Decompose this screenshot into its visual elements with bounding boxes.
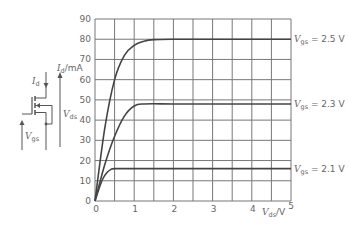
curve-label: Vgs = 2.5 V [294,34,345,46]
y-tick-label: 90 [80,14,92,24]
y-axis-ticks: 0102030405060708090 [80,14,92,206]
y-tick-label: 10 [80,176,92,186]
vgs-label: Vgs [25,131,40,143]
x-tick-label: 0 [93,204,99,214]
y-tick-label: 30 [80,135,92,145]
curve-label: Vgs = 2.3 V [294,99,345,111]
y-tick-label: 0 [85,196,91,206]
y-tick-label: 80 [80,34,92,44]
id-arrow-icon [44,83,49,88]
y-tick-label: 20 [80,156,92,166]
id-label: Id [31,76,40,88]
y-tick-label: 50 [80,95,92,105]
curve-labels: Vgs = 2.5 VVgs = 2.3 VVgs = 2.1 V [294,34,345,175]
x-tick-label: 2 [172,204,178,214]
y-tick-label: 60 [80,75,92,85]
vgs-arrow-icon [20,120,25,125]
vds-label: Vds [63,109,78,121]
grid [95,19,291,201]
iv-characteristic-chart: 0102030405060708090 012345 Vgs = 2.5 VVg… [0,0,352,228]
body-arrow-icon [36,103,40,108]
y-tick-label: 40 [80,115,92,125]
x-tick-label: 1 [132,204,138,214]
x-tick-label: 5 [288,201,294,211]
x-axis-label: Vds/V [262,207,286,219]
x-tick-label: 4 [250,204,256,214]
curve-label: Vgs = 2.1 V [294,164,345,176]
x-tick-label: 3 [211,204,217,214]
